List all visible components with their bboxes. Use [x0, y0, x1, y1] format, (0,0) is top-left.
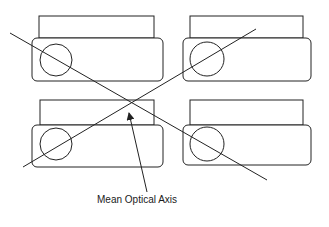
camera-back-body	[190, 100, 303, 125]
camera-unit-top-right	[183, 16, 311, 81]
camera-front-body	[183, 38, 311, 81]
camera-front-body	[32, 125, 163, 167]
camera-units	[32, 16, 311, 167]
camera-unit-top-left	[32, 16, 163, 81]
camera-back-body	[40, 100, 154, 125]
mean-optical-axis-label: Mean Optical Axis	[97, 194, 177, 205]
diagram-canvas	[0, 0, 329, 227]
camera-back-body	[39, 16, 154, 38]
camera-front-body	[183, 125, 311, 165]
camera-unit-bottom-left	[32, 100, 163, 167]
camera-unit-bottom-right	[183, 100, 311, 165]
